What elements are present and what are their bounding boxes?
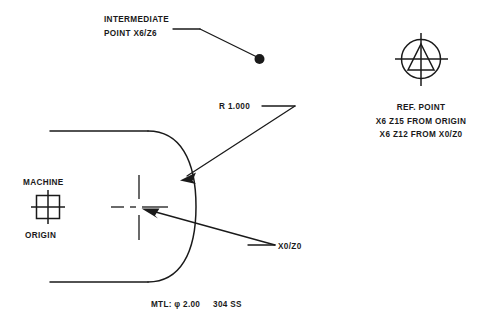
radius-label: R 1.000 (219, 102, 250, 111)
radius-leader (180, 106, 295, 184)
intermediate-point-label-line2: POINT X6/Z6 (104, 29, 157, 38)
part-zero-centerline-cross-icon (111, 175, 168, 240)
ref-point-note-line1: X6 Z15 FROM ORIGIN (376, 117, 466, 126)
drawing-svg-root: INTERMEDIATE POINT X6/Z6 MACHINE ORIGIN … (0, 0, 491, 323)
intermediate-point-dot-icon (255, 54, 265, 64)
part-zero-leader-diagonal (152, 211, 275, 245)
reference-point-circle-triangle-icon (395, 33, 448, 86)
radius-leader-diagonal (187, 106, 295, 176)
intermediate-point-label-line1: INTERMEDIATE (104, 15, 169, 24)
intermediate-point-leader (173, 29, 265, 64)
material-note: MTL: φ 2.00 304 SS (151, 300, 242, 309)
ref-point-label: REF. POINT (397, 103, 446, 112)
machine-label: MACHINE (23, 178, 64, 187)
part-zero-leader-arrowhead (142, 209, 160, 219)
intermediate-leader-diagonal (200, 29, 257, 57)
part-zero-label: X0/Z0 (278, 242, 302, 251)
technical-drawing-canvas: INTERMEDIATE POINT X6/Z6 MACHINE ORIGIN … (0, 0, 491, 323)
machine-origin-crosshair-square-icon (31, 190, 65, 224)
origin-label: ORIGIN (25, 231, 56, 240)
ref-point-note-line2: X6 Z12 FROM X0/Z0 (380, 130, 463, 139)
part-zero-leader (142, 209, 276, 246)
